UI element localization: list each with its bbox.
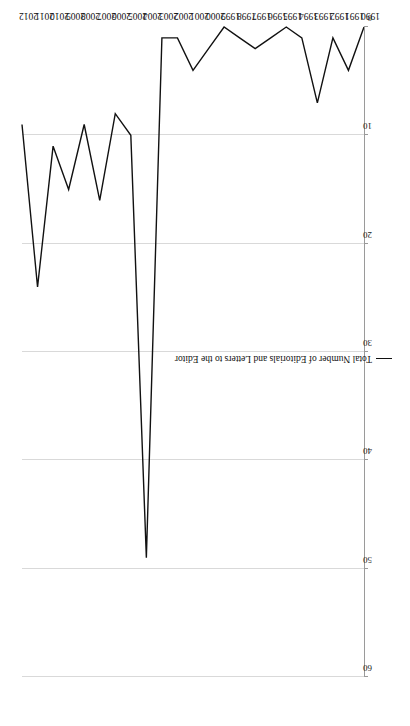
value-tick-label: 10 bbox=[363, 121, 372, 131]
chart-legend: Total Number of Editorials and Letters t… bbox=[175, 354, 392, 364]
tick-60 bbox=[364, 676, 368, 677]
value-tick-label: 40 bbox=[363, 446, 372, 456]
legend-line-swatch bbox=[376, 359, 392, 360]
value-tick-label: 20 bbox=[363, 230, 372, 240]
series-line-total-editorials bbox=[22, 27, 364, 677]
tick-40 bbox=[364, 459, 368, 460]
value-tick-label: 30 bbox=[363, 338, 372, 348]
value-tick-label: 60 bbox=[363, 663, 372, 673]
category-tick-label: 2012 bbox=[19, 11, 38, 21]
tick-30 bbox=[364, 351, 368, 352]
tick-10 bbox=[364, 134, 368, 135]
tick-20 bbox=[364, 243, 368, 244]
tick-50 bbox=[364, 568, 368, 569]
legend-label: Total Number of Editorials and Letters t… bbox=[175, 354, 372, 364]
tick-0 bbox=[364, 26, 368, 27]
value-tick-label: 50 bbox=[363, 555, 372, 565]
plot-area bbox=[22, 27, 364, 677]
chart-figure: 0102030405060 19901991199219931994199519… bbox=[0, 0, 410, 726]
